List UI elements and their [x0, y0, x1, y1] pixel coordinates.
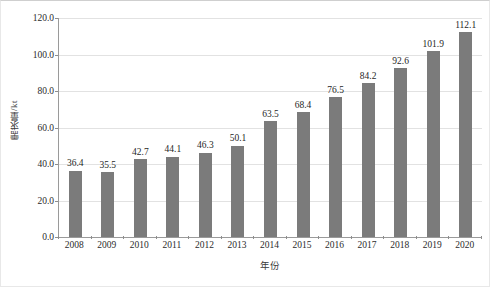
bar-wrapper: 112.1 — [459, 32, 472, 237]
bar-wrapper: 76.5 — [329, 97, 342, 237]
y-tick-label: 0.0 — [2, 232, 54, 242]
bar-value-label: 42.7 — [132, 148, 149, 158]
x-tick-mark — [123, 236, 124, 239]
bar — [69, 171, 82, 237]
x-tick-mark — [416, 236, 417, 239]
gridline — [59, 18, 482, 19]
y-tick-label: 100.0 — [2, 50, 54, 60]
bar-wrapper: 42.7 — [134, 159, 147, 237]
bar-value-label: 50.1 — [230, 134, 247, 144]
bar-wrapper: 84.2 — [362, 83, 375, 237]
y-tick-label: 20.0 — [2, 196, 54, 206]
bar — [134, 159, 147, 237]
x-tick-mark — [188, 236, 189, 239]
x-tick-mark — [221, 236, 222, 239]
bar-value-label: 46.3 — [197, 141, 214, 151]
bar-wrapper: 68.4 — [297, 112, 310, 237]
x-tick-label: 2010 — [130, 240, 149, 250]
bar-group: 112.1 — [446, 32, 486, 237]
x-tick-label: 2017 — [358, 240, 377, 250]
y-tick-label: 40.0 — [2, 159, 54, 169]
bar-value-label: 76.5 — [327, 86, 344, 96]
bar — [362, 83, 375, 237]
x-tick-mark — [481, 236, 482, 239]
x-tick-label: 2012 — [195, 240, 214, 250]
bar — [329, 97, 342, 237]
bar — [427, 51, 440, 237]
x-tick-mark — [318, 236, 319, 239]
bar-value-label: 44.1 — [165, 145, 182, 155]
x-tick-label: 2008 — [65, 240, 84, 250]
bar-wrapper: 92.6 — [394, 68, 407, 237]
x-tick-label: 2020 — [455, 240, 474, 250]
x-tick-mark — [286, 236, 287, 239]
bar-value-label: 35.5 — [99, 161, 116, 171]
plot-area: 36.435.542.744.146.350.163.568.476.584.2… — [58, 18, 482, 238]
x-tick-label: 2013 — [227, 240, 246, 250]
bar — [459, 32, 472, 237]
x-tick-mark — [91, 236, 92, 239]
bar — [166, 157, 179, 237]
bar-wrapper: 50.1 — [231, 146, 244, 237]
x-tick-mark — [351, 236, 352, 239]
y-axis-ticks: 0.020.040.060.080.0100.0120.0 — [0, 18, 58, 238]
bar — [199, 153, 212, 237]
bar-wrapper: 35.5 — [101, 172, 114, 237]
x-tick-mark — [156, 236, 157, 239]
bar — [231, 146, 244, 237]
bar-wrapper: 101.9 — [427, 51, 440, 237]
bar — [394, 68, 407, 237]
bar-wrapper: 63.5 — [264, 121, 277, 237]
bar-value-label: 112.1 — [455, 21, 476, 31]
x-tick-label: 2018 — [390, 240, 409, 250]
bar-wrapper: 46.3 — [199, 153, 212, 237]
bar-chart: 需求量/kt 0.020.040.060.080.0100.0120.0 36.… — [0, 0, 490, 287]
x-tick-label: 2009 — [97, 240, 116, 250]
x-axis-title: 年份 — [58, 258, 482, 272]
bar — [101, 172, 114, 237]
bar-value-label: 63.5 — [262, 110, 279, 120]
x-tick-label: 2019 — [423, 240, 442, 250]
bar-wrapper: 44.1 — [166, 157, 179, 237]
x-tick-mark — [448, 236, 449, 239]
x-tick-label: 2015 — [293, 240, 312, 250]
bar — [297, 112, 310, 237]
bar-value-label: 36.4 — [67, 159, 84, 169]
x-tick-mark — [253, 236, 254, 239]
x-tick-label: 2014 — [260, 240, 279, 250]
bar — [264, 121, 277, 237]
bar-value-label: 92.6 — [392, 57, 409, 67]
x-tick-mark — [58, 236, 59, 239]
bar-value-label: 101.9 — [423, 40, 444, 50]
y-tick-label: 120.0 — [2, 13, 54, 23]
x-tick-mark — [383, 236, 384, 239]
y-tick-label: 80.0 — [2, 86, 54, 96]
x-tick-label: 2016 — [325, 240, 344, 250]
bar-value-label: 68.4 — [295, 101, 312, 111]
bar-value-label: 84.2 — [360, 72, 377, 82]
y-tick-label: 60.0 — [2, 123, 54, 133]
bar-wrapper: 36.4 — [69, 171, 82, 237]
x-tick-label: 2011 — [163, 240, 182, 250]
x-axis-ticks: 2008200920102011201220132014201520162017… — [58, 240, 482, 256]
